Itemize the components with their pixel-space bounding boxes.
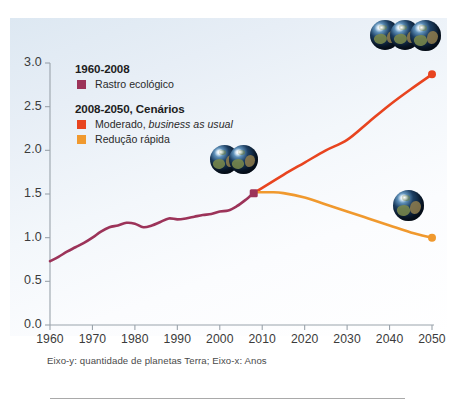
legend-group-title-historical: 1960-2008 <box>75 62 233 75</box>
legend-item-business-as-usual[interactable]: Moderado, business as usual <box>77 117 233 131</box>
chart-markers-layer <box>250 70 436 241</box>
bau-endpoint <box>428 70 436 78</box>
x-axis-tick-label: 1990 <box>155 332 199 346</box>
legend-item-historical[interactable]: Rastro ecológico <box>77 77 233 91</box>
chart-figure: 0.00.51.01.52.02.53.0 196019701980199020… <box>0 0 454 409</box>
legend-group-title-scenarios: 2008-2050, Cenários <box>75 102 233 115</box>
x-axis-tick-label: 2030 <box>325 332 369 346</box>
chart-line-series <box>254 74 432 193</box>
legend-swatch-historical <box>77 80 86 89</box>
junction-marker <box>250 189 258 197</box>
x-axis-ticks <box>50 325 432 330</box>
x-axis-tick-label: 2020 <box>283 332 327 346</box>
legend-label-rapid-reduction: Redução rápida <box>95 133 170 145</box>
x-axis-tick-label: 2010 <box>240 332 284 346</box>
legend-label-bau-text: Moderado, <box>95 118 149 130</box>
y-axis-ticks <box>45 63 50 325</box>
y-axis-tick-label: 2.5 <box>8 99 42 113</box>
reduction-endpoint <box>428 234 436 242</box>
y-axis-tick-label: 0.5 <box>8 273 42 287</box>
chart-line-series <box>50 193 254 261</box>
legend-swatch-business-as-usual <box>77 120 86 129</box>
x-axis-tick-label: 1960 <box>28 332 72 346</box>
chart-legend: 1960-2008 Rastro ecológico 2008-2050, Ce… <box>75 62 233 146</box>
legend-item-rapid-reduction[interactable]: Redução rápida <box>77 132 233 146</box>
x-axis-tick-label: 2000 <box>198 332 242 346</box>
y-axis-tick-label: 1.0 <box>8 230 42 244</box>
y-axis-tick-label: 0.0 <box>8 317 42 331</box>
x-axis-tick-label: 1980 <box>113 332 157 346</box>
x-axis-tick-label: 2040 <box>368 332 412 346</box>
legend-swatch-rapid-reduction <box>77 135 86 144</box>
chart-line-series <box>254 192 432 237</box>
x-axis-tick-label: 1970 <box>70 332 114 346</box>
legend-label-historical: Rastro ecológico <box>95 78 174 90</box>
y-axis-tick-label: 2.0 <box>8 142 42 156</box>
legend-label-business-as-usual: Moderado, business as usual <box>95 118 233 130</box>
y-axis-tick-label: 1.5 <box>8 186 42 200</box>
chart-caption: Eixo-y: quantidade de planetas Terra; Ei… <box>47 355 267 366</box>
legend-label-bau-emphasis: business as usual <box>149 118 233 130</box>
y-axis-tick-label: 3.0 <box>8 55 42 69</box>
x-axis-tick-label: 2050 <box>410 332 454 346</box>
footer-divider <box>50 398 405 399</box>
